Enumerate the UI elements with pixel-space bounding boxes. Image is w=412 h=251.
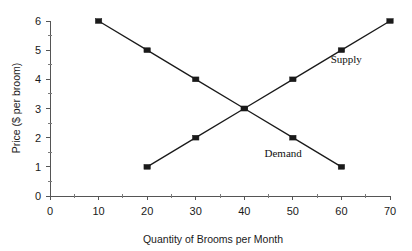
x-tick-label: 0 xyxy=(47,205,53,217)
data-point-marker xyxy=(144,164,150,169)
data-point-marker xyxy=(290,77,296,82)
y-tick-label: 2 xyxy=(35,132,41,144)
x-axis-ticks xyxy=(50,194,390,200)
axes xyxy=(50,21,390,196)
x-tick-label: 40 xyxy=(238,205,250,217)
data-point-marker xyxy=(290,135,296,140)
y-tick-label: 0 xyxy=(35,190,41,202)
x-tick-label: 20 xyxy=(141,205,153,217)
y-tick-label: 1 xyxy=(35,161,41,173)
series-label-demand: Demand xyxy=(265,147,303,159)
y-tick-label: 3 xyxy=(35,103,41,115)
x-axis-title: Quantity of Brooms per Month xyxy=(143,233,283,245)
x-tick-label: 30 xyxy=(190,205,202,217)
series-lines xyxy=(99,21,390,167)
x-tick-label: 10 xyxy=(92,205,104,217)
series-markers xyxy=(95,19,393,170)
series-line-demand xyxy=(99,21,342,167)
supply-demand-chart: 010203040506070 0123456 DemandSupply Qua… xyxy=(0,0,412,251)
chart-page: 010203040506070 0123456 DemandSupply Qua… xyxy=(0,0,412,251)
y-tick-label: 6 xyxy=(35,15,41,27)
y-tick-label: 5 xyxy=(35,44,41,56)
data-point-marker xyxy=(193,135,199,140)
data-point-marker xyxy=(338,48,344,53)
series-line-supply xyxy=(147,21,390,167)
data-point-marker xyxy=(338,164,344,169)
x-tick-label: 70 xyxy=(384,205,396,217)
data-point-marker xyxy=(193,77,199,82)
data-point-marker xyxy=(144,48,150,53)
y-axis-tick-labels: 0123456 xyxy=(35,15,41,202)
data-point-marker xyxy=(241,106,247,111)
data-point-marker xyxy=(387,19,393,24)
series-annotations: DemandSupply xyxy=(265,53,363,158)
data-point-marker xyxy=(95,19,101,24)
x-axis-tick-labels: 010203040506070 xyxy=(47,205,396,217)
y-tick-label: 4 xyxy=(35,73,41,85)
x-tick-label: 60 xyxy=(335,205,347,217)
series-label-supply: Supply xyxy=(331,53,363,65)
y-axis-ticks xyxy=(46,21,52,196)
y-axis-title: Price ($ per broom) xyxy=(10,63,22,153)
x-tick-label: 50 xyxy=(287,205,299,217)
